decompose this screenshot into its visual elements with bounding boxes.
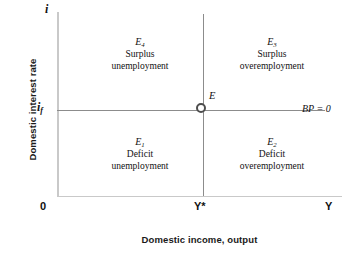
quadrant-top-right-subscript: 3 xyxy=(273,41,276,48)
quadrant-top-left-subscript: 4 xyxy=(141,41,144,48)
x-axis-line xyxy=(57,196,342,198)
bp-zero-line xyxy=(57,110,325,111)
quadrant-bottom-right-line2: overemployment xyxy=(212,161,332,173)
quadrant-bottom-left-line1: Deficit xyxy=(90,149,190,161)
quadrant-bottom-left-subscript: 1 xyxy=(141,141,144,148)
quadrant-bottom-right-symbol: E2 xyxy=(212,136,332,149)
potential-output-tick: Y* xyxy=(194,200,206,212)
origin-label: 0 xyxy=(40,200,46,212)
foreign-interest-rate-tick: if xyxy=(37,100,43,115)
quadrant-top-left-line2: unemployment xyxy=(90,61,190,73)
quadrant-top-left-line1: Surplus xyxy=(90,49,190,61)
quadrant-top-right-line1: Surplus xyxy=(212,49,332,61)
x-axis-title: Domestic income, output xyxy=(57,234,342,245)
quadrant-top-right-line2: overemployment xyxy=(212,61,332,73)
quadrant-top-left-symbol: E4 xyxy=(90,36,190,49)
x-axis-symbol: Y xyxy=(325,200,332,212)
quadrant-bottom-left-line2: unemployment xyxy=(90,161,190,173)
quadrant-bottom-right: E2 Deficit overemployment xyxy=(212,136,332,172)
quadrant-bottom-right-line1: Deficit xyxy=(212,149,332,161)
y-axis-title: Domestic interest rate xyxy=(27,30,38,190)
equilibrium-point-marker xyxy=(196,103,206,113)
quadrant-bottom-right-subscript: 2 xyxy=(273,141,276,148)
potential-output-star: * xyxy=(201,200,205,212)
y-axis-symbol: i xyxy=(45,2,48,17)
quadrant-top-right: E3 Surplus overemployment xyxy=(212,36,332,72)
quadrant-bottom-left: E1 Deficit unemployment xyxy=(90,136,190,172)
y-axis-line xyxy=(57,12,59,197)
bp-zero-label: BP = 0 xyxy=(302,103,331,114)
quadrant-bottom-left-symbol: E1 xyxy=(90,136,190,149)
foreign-interest-rate-subscript: f xyxy=(40,106,43,115)
quadrant-top-right-symbol: E3 xyxy=(212,36,332,49)
quadrant-top-left: E4 Surplus unemployment xyxy=(90,36,190,72)
equilibrium-point-label: E xyxy=(209,90,215,101)
bop-equilibrium-diagram: Domestic interest rate Domestic income, … xyxy=(0,0,352,256)
